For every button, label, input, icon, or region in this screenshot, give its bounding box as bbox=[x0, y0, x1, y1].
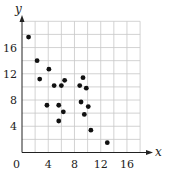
data-point bbox=[37, 77, 42, 82]
data-point bbox=[45, 103, 50, 108]
data-point bbox=[84, 86, 89, 91]
x-tick-label: 12 bbox=[94, 158, 108, 171]
y-axis-label: y bbox=[14, 2, 22, 16]
y-tick-label: 16 bbox=[3, 42, 17, 55]
x-axis-label: x bbox=[155, 145, 162, 159]
data-point bbox=[79, 100, 84, 105]
origin-label: 0 bbox=[13, 158, 20, 171]
data-point bbox=[46, 67, 51, 72]
data-point bbox=[86, 104, 91, 109]
x-tick-label: 4 bbox=[45, 158, 52, 171]
data-point bbox=[59, 83, 64, 88]
scatter-chart: 481216481216 x y 0 bbox=[0, 0, 169, 176]
axes bbox=[20, 15, 154, 155]
x-tick-label: 8 bbox=[71, 158, 78, 171]
data-point bbox=[62, 78, 67, 83]
y-tick-label: 4 bbox=[10, 120, 17, 133]
data-point bbox=[82, 112, 87, 117]
data-point bbox=[35, 58, 40, 63]
y-axis-arrow-icon bbox=[20, 15, 25, 22]
y-tick-label: 12 bbox=[3, 68, 17, 81]
y-tick-label: 8 bbox=[10, 94, 17, 107]
x-axis-arrow-icon bbox=[146, 150, 153, 155]
data-point bbox=[88, 128, 93, 133]
data-point bbox=[81, 75, 86, 80]
data-point bbox=[61, 109, 66, 114]
data-points bbox=[26, 35, 110, 145]
data-point bbox=[26, 35, 31, 40]
data-point bbox=[56, 119, 61, 124]
data-point bbox=[56, 103, 61, 108]
data-point bbox=[52, 83, 57, 88]
data-point bbox=[77, 83, 82, 88]
data-point bbox=[105, 140, 110, 145]
x-tick-label: 16 bbox=[120, 158, 134, 171]
